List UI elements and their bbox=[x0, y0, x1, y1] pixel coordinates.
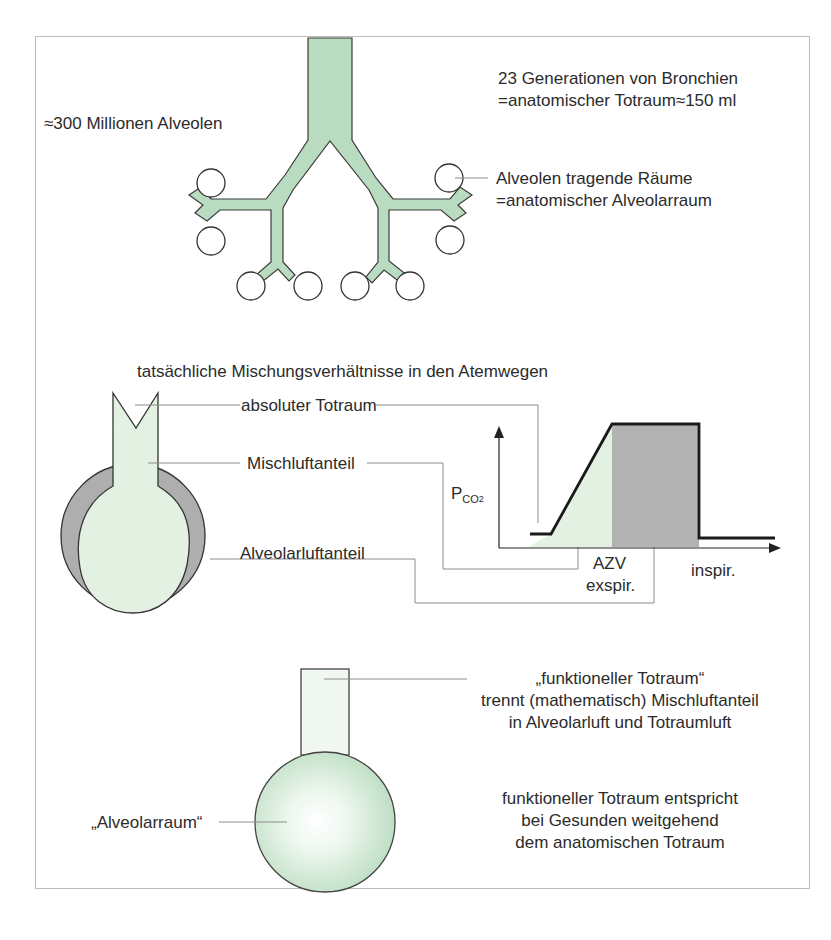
note-line-3: dem anatomischen Totraum bbox=[420, 832, 820, 853]
alveolus-flask bbox=[61, 393, 205, 613]
pco2-axis-label: PCO2 bbox=[451, 483, 484, 510]
mixed-air-label: Mischluftanteil bbox=[247, 453, 355, 474]
alveolar-spaces-label: Alveolen tragende Räume bbox=[496, 168, 693, 189]
alveoli-count-label: ≈300 Millionen Alveolen bbox=[44, 113, 223, 134]
alveolar-space-label: „Alveolarraum“ bbox=[91, 812, 202, 833]
functional-deadspace-title: „funktioneller Totraum“ bbox=[420, 668, 820, 689]
functional-deadspace-desc-2: in Alveolarluft und Totraumluft bbox=[420, 712, 820, 733]
absolute-deadspace-label: absoluter Totraum bbox=[241, 395, 377, 416]
bronchi-generations-label: 23 Generationen von Bronchien bbox=[498, 68, 738, 89]
bronchial-tree bbox=[189, 38, 472, 283]
alveoli-circles bbox=[197, 164, 464, 300]
note-line-1: funktioneller Totraum entspricht bbox=[420, 788, 820, 809]
exspir-label: exspir. bbox=[586, 575, 635, 596]
middle-section-title: tatsächliche Mischungsverhältnisse in de… bbox=[137, 361, 548, 382]
anatomical-alveolar-space-label: =anatomischer Alveolarraum bbox=[496, 190, 712, 211]
functional-deadspace-desc-1: trennt (mathematisch) Mischluftanteil bbox=[420, 690, 820, 711]
azv-label: AZV bbox=[593, 553, 626, 574]
anatomical-deadspace-label: =anatomischer Totraum≈150 ml bbox=[498, 90, 736, 111]
alveolar-air-label: Alveolarluftanteil bbox=[240, 543, 365, 564]
note-line-2: bei Gesunden weitgehend bbox=[420, 810, 820, 831]
capnogram-graph bbox=[494, 424, 781, 553]
inspir-label: inspir. bbox=[691, 560, 735, 581]
